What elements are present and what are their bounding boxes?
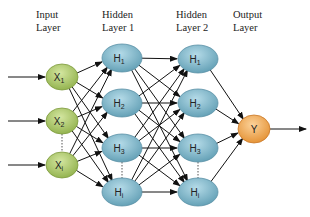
connection-arrow (76, 62, 101, 73)
svg-text:Y: Y (251, 124, 258, 135)
neuron-node: H3 (178, 134, 218, 162)
neuron-node: X1 (46, 64, 78, 90)
connection-arrow (76, 170, 103, 187)
neuron-node: H1 (102, 44, 142, 72)
connection-arrow (216, 133, 238, 144)
neuron-node: Xi (46, 152, 78, 178)
neuron-node: Hi (178, 178, 218, 206)
connection-arrow (77, 151, 102, 161)
connection-arrow (141, 58, 177, 59)
connection-arrow (215, 109, 238, 124)
neuron-node: H2 (178, 89, 218, 117)
neuron-node: H2 (102, 89, 142, 117)
neuron-node: Y (238, 115, 270, 143)
neuron-node: H3 (102, 134, 142, 162)
network-diagram: X1X2XiH1H2H3HiH1H2H3HiY (0, 0, 310, 217)
neuron-node: H1 (178, 45, 218, 73)
connection-arrow (210, 69, 244, 119)
neuron-node: Hi (102, 178, 142, 206)
neuron-node: X2 (46, 108, 78, 134)
